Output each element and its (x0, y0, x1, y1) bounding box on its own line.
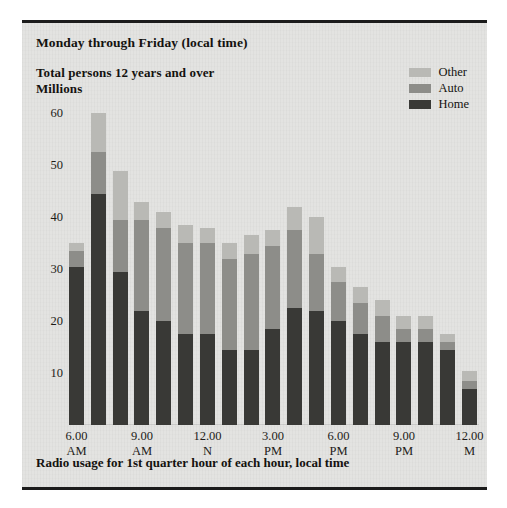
bar-segment-auto (134, 220, 149, 311)
chart-subtitle-line-2: Millions (36, 81, 82, 97)
bar-segment-home (331, 321, 346, 425)
plot-area (69, 103, 477, 425)
bar-segment-home (113, 272, 128, 425)
bar-segment-auto (91, 152, 106, 194)
legend-swatch-auto-icon (409, 84, 431, 93)
bar-segment-auto (178, 243, 193, 334)
bar-segment-auto (287, 230, 302, 308)
x-axis-tick-time: 12.00 (193, 429, 221, 443)
bar-8-00-am (113, 171, 128, 425)
bar-segment-other (156, 212, 171, 228)
x-axis-tick: 9.00PM (393, 429, 415, 459)
bar-segment-home (244, 350, 259, 425)
x-axis-tick-time: 3.00 (262, 429, 284, 443)
bar-11-00-pm (440, 334, 455, 425)
bar-segment-auto (265, 246, 280, 329)
y-axis-tick: 10 (39, 366, 63, 381)
x-axis-tick: 12.00M (455, 429, 483, 459)
legend-item-auto: Auto (409, 81, 469, 95)
bar-7-00-am (91, 113, 106, 425)
y-axis: 102030405060 (37, 103, 63, 425)
bar-segment-other (91, 113, 106, 152)
x-axis-tick-time: 6.00 (66, 429, 88, 443)
bar-12-00-n (200, 228, 215, 425)
bottom-rule (22, 487, 487, 490)
bar-segment-home (440, 350, 455, 425)
x-axis-tick-time: 6.00 (328, 429, 350, 443)
bar-segment-home (265, 329, 280, 425)
bar-segment-auto (200, 243, 215, 334)
bar-segment-home (353, 334, 368, 425)
bar-9-00-am (134, 202, 149, 425)
bar-9-00-pm (396, 316, 411, 425)
chart-footnote: Radio usage for 1st quarter hour of each… (36, 455, 349, 471)
bar-segment-home (309, 311, 324, 425)
x-axis-tick-meridiem: M (455, 444, 483, 459)
bar-10-00-am (156, 212, 171, 425)
bar-segment-home (178, 334, 193, 425)
bar-segment-auto (309, 254, 324, 311)
bar-segment-other (113, 171, 128, 220)
x-axis-tick-time: 9.00 (393, 429, 415, 443)
bar-segment-auto (113, 220, 128, 272)
bar-11-00-am (178, 225, 193, 425)
bar-7-00-pm (353, 287, 368, 425)
bar-segment-other (353, 287, 368, 303)
bar-segment-auto (331, 282, 346, 321)
bar-segment-home (462, 389, 477, 425)
chart-panel: Monday through Friday (local time) Total… (22, 23, 487, 487)
bar-segment-other (244, 235, 259, 253)
bar-3-00-pm (265, 230, 280, 425)
bar-segment-other (462, 371, 477, 381)
bar-segment-home (91, 194, 106, 425)
bar-segment-auto (462, 381, 477, 389)
bar-10-00-pm (418, 316, 433, 425)
legend-label: Auto (438, 82, 463, 95)
bar-segment-home (396, 342, 411, 425)
x-axis-tick-meridiem: PM (393, 444, 415, 459)
bar-segment-home (156, 321, 171, 425)
bar-segment-other (287, 207, 302, 230)
bar-segment-other (331, 267, 346, 283)
legend-item-other: Other (409, 65, 469, 79)
bar-1-00-pm (222, 243, 237, 425)
bar-segment-home (418, 342, 433, 425)
bar-segment-auto (244, 254, 259, 350)
bar-5-00-pm (309, 217, 324, 425)
legend-label: Other (438, 66, 466, 79)
bar-group (69, 103, 477, 425)
bar-segment-other (265, 230, 280, 246)
bar-segment-auto (156, 228, 171, 321)
bar-6-00-pm (331, 267, 346, 425)
bar-6-00-am (69, 243, 84, 425)
bar-2-00-pm (244, 235, 259, 425)
bar-8-00-pm (375, 300, 390, 425)
bar-segment-other (418, 316, 433, 329)
bar-segment-other (222, 243, 237, 259)
y-axis-tick: 30 (39, 262, 63, 277)
chart-header-daypart: Monday through Friday (local time) (36, 35, 248, 51)
bar-segment-home (375, 342, 390, 425)
chart-page: Monday through Friday (local time) Total… (0, 0, 507, 508)
bar-segment-auto (353, 303, 368, 334)
bar-segment-home (134, 311, 149, 425)
bar-segment-auto (396, 329, 411, 342)
y-axis-tick: 50 (39, 158, 63, 173)
y-axis-tick: 20 (39, 314, 63, 329)
bar-segment-auto (222, 259, 237, 350)
x-axis-tick-time: 9.00 (131, 429, 153, 443)
y-axis-tick: 60 (39, 106, 63, 121)
bar-segment-home (287, 308, 302, 425)
bar-segment-other (309, 217, 324, 253)
bar-segment-other (69, 243, 84, 251)
bar-4-00-pm (287, 207, 302, 425)
bar-segment-home (200, 334, 215, 425)
bar-segment-other (200, 228, 215, 244)
bar-12-00-m (462, 371, 477, 426)
x-axis-tick-time: 12.00 (455, 429, 483, 443)
bar-segment-other (440, 334, 455, 342)
bar-segment-auto (418, 329, 433, 342)
bar-segment-auto (440, 342, 455, 350)
chart-subtitle-line-1: Total persons 12 years and over (36, 65, 215, 81)
bar-segment-other (178, 225, 193, 243)
